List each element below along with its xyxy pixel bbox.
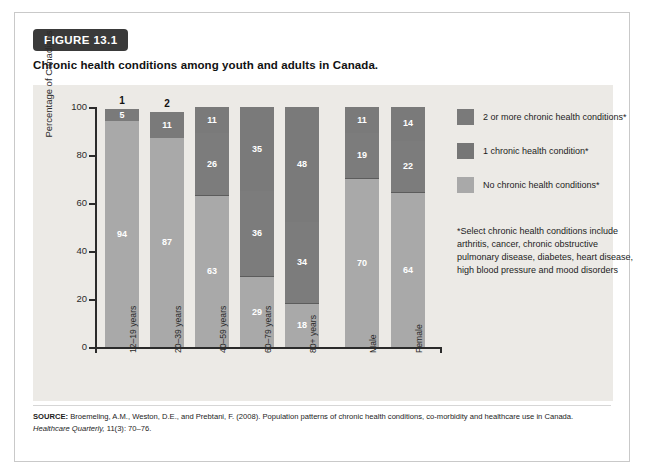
x-category-label: 60–79 years [263, 306, 273, 353]
bar-segment-none: 70 [345, 179, 379, 347]
bar-value-label: 64 [403, 266, 413, 275]
bar-segment-one: 36 [240, 191, 274, 277]
y-tick-label-100: 100 [61, 101, 87, 112]
bar-value-label: 19 [357, 151, 367, 160]
bar-value-label: 34 [297, 258, 307, 267]
bar-value-label: 94 [117, 230, 127, 239]
y-tick-0 [89, 347, 95, 349]
bar-value-label: 29 [252, 308, 262, 317]
legend-label: No chronic health conditions* [483, 180, 600, 190]
source-citation: SOURCE: Broemeling, A.M., Weston, D.E., … [33, 411, 611, 435]
bar-value-label: 48 [297, 160, 307, 169]
bar-value-label: 26 [207, 160, 217, 169]
bar-value-label: 87 [162, 238, 172, 247]
bar-6[interactable]: 111970 [345, 107, 379, 347]
legend-item-1: 2 or more chronic health conditions* [457, 109, 637, 125]
bar-annotation-1: 1 [105, 95, 139, 106]
x-axis-left-cap [95, 347, 97, 353]
bar-value-label: 36 [252, 229, 262, 238]
bar-value-label: 35 [252, 145, 262, 154]
legend-item-2: 1 chronic health condition* [457, 143, 637, 159]
x-category-label: 40–59 years [218, 306, 228, 353]
bar-value-label: 14 [403, 119, 413, 128]
source-text-part1: Broemeling, A.M., Weston, D.E., and Preb… [68, 412, 573, 421]
bar-segment-one: 22 [391, 141, 425, 194]
bar-value-label: 22 [403, 162, 413, 171]
y-tick-label-0: 0 [61, 341, 87, 352]
source-journal: Healthcare Quarterly, [33, 424, 105, 433]
bar-value-label: 18 [297, 321, 307, 330]
legend-label: 1 chronic health condition* [483, 146, 589, 156]
x-category-label: 80+ years [308, 315, 318, 353]
bar-value-label: 70 [357, 259, 367, 268]
bar-value-label: 11 [162, 121, 172, 130]
legend-swatch-two [457, 109, 474, 125]
bar-segment-one: 26 [195, 133, 229, 195]
y-tick-label-80: 80 [61, 149, 87, 160]
bar-segment-two: 11 [150, 112, 184, 138]
bar-value-label: 63 [207, 267, 217, 276]
bar-annotation-2: 2 [150, 98, 184, 109]
bar-segment-two: 48 [285, 107, 319, 222]
bar-segment-two: 14 [391, 107, 425, 141]
source-text-part2: 11(3): 70–76. [105, 424, 152, 433]
x-category-label: Male [368, 334, 378, 353]
plot-area: Percentage of Canadians 020406080100 594… [95, 107, 442, 347]
source-divider [33, 405, 611, 406]
chart-panel: Percentage of Canadians 020406080100 594… [33, 85, 613, 401]
legend-swatch-none [457, 177, 474, 193]
legend-footnote: *Select chronic health conditions includ… [457, 225, 635, 277]
x-category-label: 12–19 years [128, 306, 138, 353]
bar-segment-one: 19 [345, 133, 379, 179]
x-category-label: Female [414, 324, 424, 353]
bar-value-label: 11 [207, 116, 217, 125]
y-axis-title: Percentage of Canadians [43, 9, 54, 159]
source-label: SOURCE: [33, 412, 68, 421]
bar-7[interactable]: 142264 [391, 107, 425, 347]
bar-segment-two: 5 [105, 109, 139, 121]
x-axis-right-cap [440, 347, 442, 353]
figure-title: Chronic health conditions among youth an… [33, 59, 378, 71]
bar-segment-one: 34 [285, 222, 319, 304]
x-category-label: 20–39 years [173, 306, 183, 353]
bar-value-label: 5 [119, 111, 124, 120]
bar-segment-two: 11 [345, 107, 379, 133]
y-tick-label-20: 20 [61, 293, 87, 304]
legend-label: 2 or more chronic health conditions* [483, 112, 627, 122]
bar-segment-two: 35 [240, 107, 274, 191]
y-tick-label-40: 40 [61, 245, 87, 256]
bar-5[interactable]: 483418 [285, 107, 319, 347]
legend-item-3: No chronic health conditions* [457, 177, 637, 193]
figure-card: FIGURE 13.1 Chronic health conditions am… [14, 12, 630, 462]
chart-legend: 2 or more chronic health conditions*1 ch… [457, 109, 637, 211]
y-tick-label-60: 60 [61, 197, 87, 208]
bar-segment-two: 11 [195, 107, 229, 133]
bar-value-label: 11 [357, 116, 367, 125]
legend-swatch-one [457, 143, 474, 159]
